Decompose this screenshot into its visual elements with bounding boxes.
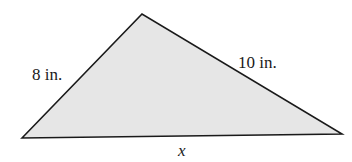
triangle-diagram: 8 in. 10 in. x [0,0,352,162]
left-side-label: 8 in. [32,66,62,83]
right-side-label: 10 in. [238,54,277,71]
base-label: x [178,142,186,159]
